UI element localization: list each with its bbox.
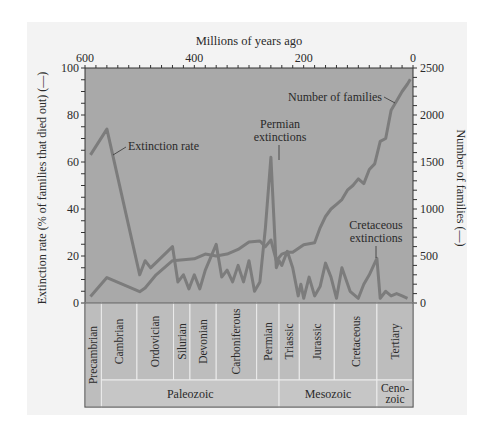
left-tick-label: 20 [67, 249, 79, 263]
permian-label-line2: extinctions [254, 130, 307, 144]
period-label: Silurian [176, 323, 188, 360]
top-tick-label: 0 [410, 51, 416, 65]
period-label: Jurassic [311, 323, 323, 359]
left-tick-label: 100 [61, 61, 79, 75]
period-label: Cambrian [113, 319, 125, 365]
cretaceous-label-line2: extinctions [350, 231, 403, 245]
era-label: zoic [385, 393, 404, 405]
period-label: Devonian [197, 319, 209, 364]
left-axis-title: Extinction rate (% of families that died… [35, 72, 49, 305]
period-label: Permian [262, 322, 274, 361]
era-label: Mesozoic [305, 387, 352, 401]
era-label: Paleozoic [167, 387, 214, 401]
number-of-families-label: Number of families [288, 90, 382, 104]
right-axis-title: Number of families (—) [454, 130, 468, 247]
right-tick-label: 1000 [420, 202, 444, 216]
cretaceous-label-line1: Cretaceous [349, 218, 403, 232]
top-axis-title: Millions of years ago [196, 34, 303, 48]
period-label: Tertiary [389, 323, 402, 359]
top-tick-label: 400 [185, 51, 203, 65]
permian-label-line1: Permian [260, 117, 300, 131]
left-tick-label: 80 [67, 108, 79, 122]
left-tick-label: 40 [67, 202, 79, 216]
period-label: Precambrian [87, 326, 99, 384]
period-label: Ordovician [149, 315, 161, 367]
top-tick-label: 200 [295, 51, 313, 65]
right-tick-label: 1500 [420, 155, 444, 169]
right-tick-label: 0 [420, 296, 426, 310]
extinction-rate-label: Extinction rate [128, 139, 199, 153]
period-label: Triassic [283, 324, 295, 360]
left-tick-label: 0 [73, 296, 79, 310]
right-tick-label: 500 [420, 249, 438, 263]
geologic-timescale: PrecambrianCambrianOrdovicianSilurianDev… [85, 303, 413, 407]
period-label: Cretaceous [350, 315, 362, 367]
extinction-chart: 6004002000020406080100050010001500200025… [0, 0, 492, 427]
left-tick-label: 60 [67, 155, 79, 169]
period-label: Carboniferous [230, 308, 242, 374]
right-tick-label: 2500 [420, 61, 444, 75]
right-tick-label: 2000 [420, 108, 444, 122]
